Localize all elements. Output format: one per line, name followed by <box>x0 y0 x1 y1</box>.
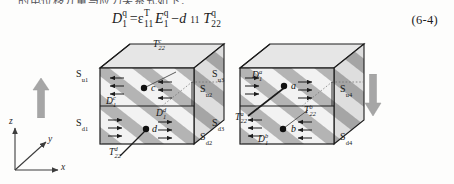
point-b-dot <box>280 126 286 132</box>
eq-stress-sub: 22 <box>211 24 221 26</box>
surface-sd1-label: Sd1 <box>76 117 88 128</box>
axis-label-y: y <box>48 134 52 144</box>
equation-number: (6-4) <box>412 13 439 28</box>
surface-sd3-label: Sd3 <box>212 117 224 128</box>
coordinate-axes: z y x <box>6 118 70 180</box>
surface-sd2-label: Sd2 <box>200 131 212 142</box>
up-arrow-svg <box>32 78 50 118</box>
stress-t22d-label: Td22 <box>109 147 114 157</box>
point-d-label: d <box>152 123 157 134</box>
stress-t22c-label: Tc22 <box>153 39 158 49</box>
eq-perm-sub: 11 <box>144 24 153 26</box>
point-a-dot <box>281 83 287 89</box>
vector-d1c-label: Dc1 <box>106 96 113 106</box>
up-block-arrow <box>32 78 50 122</box>
vector-d1b-label: Db1 <box>258 134 265 144</box>
equation-6-4: Dq1 =εT11 Eq1 −d 11 Tq22 <box>112 11 211 27</box>
stress-t22b-label: Tb22 <box>304 105 309 115</box>
vector-d1d-label: Dd1 <box>156 108 163 118</box>
down-block-arrow <box>364 74 382 120</box>
eq-equals: = <box>130 11 138 26</box>
point-b-label: b <box>291 123 296 134</box>
surface-su2-label: Su2 <box>200 83 212 94</box>
surface-sd4-label: Sd4 <box>340 131 352 142</box>
eq-lhs-D: D <box>112 11 122 26</box>
axis-label-z: z <box>9 116 13 126</box>
stress-t22a-label: Ta22 <box>235 112 240 122</box>
point-d-dot <box>143 126 149 132</box>
surface-su3-label: Su3 <box>212 68 224 79</box>
axis-label-x: x <box>61 162 65 172</box>
clipped-top-text: 的电位移分量与应力关系式如下： <box>18 0 318 4</box>
eq-stress-T: T <box>203 11 211 26</box>
vector-d1a-label: Da1 <box>252 70 259 80</box>
eq-field-E: E <box>155 11 164 26</box>
surface-su4-label: Su4 <box>340 83 352 94</box>
surface-su1-label: Su1 <box>76 68 88 79</box>
down-arrow-svg <box>364 74 382 116</box>
point-c-label: c <box>151 82 155 93</box>
figure-page: 的电位移分量与应力关系式如下： Dq1 =εT11 Eq1 −d 11 Tq22… <box>0 0 454 184</box>
eq-field-sub: 1 <box>164 24 169 26</box>
point-a-label: a <box>291 80 296 91</box>
point-c-dot <box>141 85 147 91</box>
eq-d-coeff: d <box>179 11 186 26</box>
eq-d-sub: 11 <box>190 15 199 25</box>
eq-lhs-sub: 1 <box>122 24 127 26</box>
